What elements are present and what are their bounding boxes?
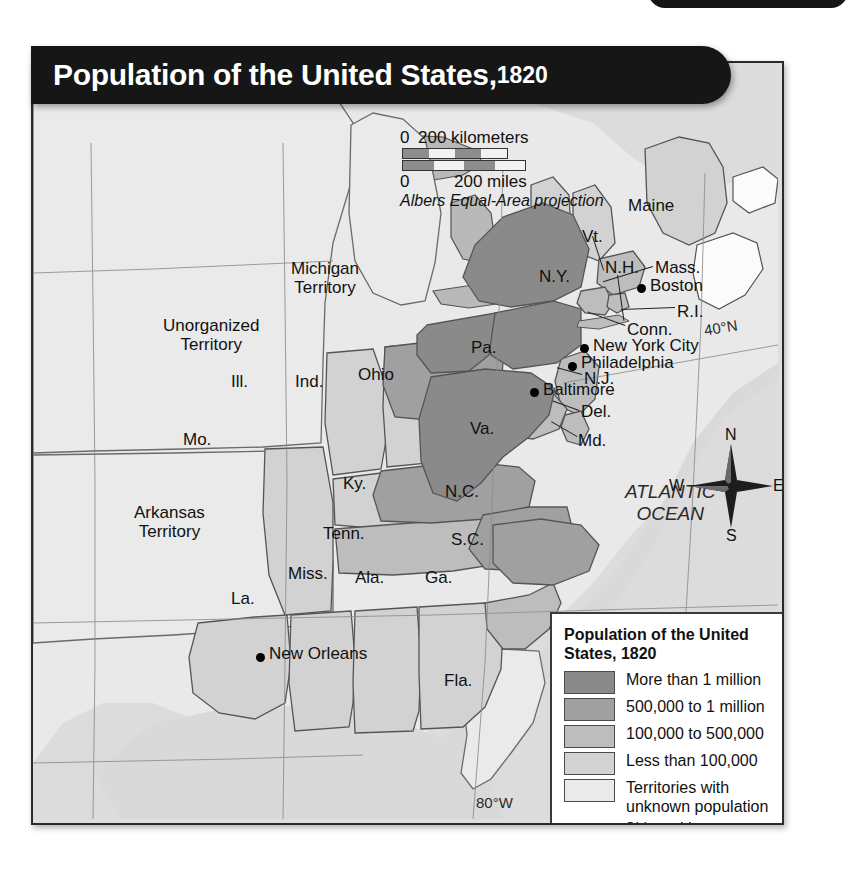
label-baltimore: Baltimore — [543, 381, 615, 398]
label-north-carolina: N.C. — [445, 483, 479, 500]
legend-item-less-than-100k: Less than 100,000 — [564, 751, 784, 775]
compass-star-icon — [681, 436, 781, 536]
map-scale-bar: 0 200 kilometers 0 200 miles Albers Equa… — [400, 128, 604, 210]
legend-label-tier5: Territories with unknown population — [626, 778, 768, 816]
legend-item-100k-to-500k: 100,000 to 500,000 — [564, 724, 784, 748]
label-new-york-city: New York City — [593, 337, 699, 354]
map-legend: Population of the United States, 1820 Mo… — [550, 612, 784, 825]
legend-swatch-tier3 — [564, 725, 615, 748]
legend-city-dot-wrap — [564, 819, 613, 825]
legend-label-tier1: More than 1 million — [626, 670, 761, 689]
label-georgia: Ga. — [425, 569, 452, 586]
label-alabama: Ala. — [355, 569, 384, 586]
legend-swatch-tier1 — [564, 671, 615, 694]
city-dot-new-orleans — [256, 653, 265, 662]
label-delaware: Del. — [581, 403, 611, 420]
legend-item-more-than-1-million: More than 1 million — [564, 670, 784, 694]
legend-label-tier2: 500,000 to 1 million — [626, 697, 765, 716]
city-dot-new-york-city — [580, 344, 589, 353]
compass-rose: N E S W — [681, 436, 781, 536]
scale-km-zero: 0 — [400, 128, 418, 147]
label-massachusetts: Mass. — [655, 259, 700, 276]
label-mississippi: Miss. — [288, 565, 328, 582]
map-projection-label: Albers Equal-Area projection — [400, 192, 604, 210]
legend-item-500k-to-1m: 500,000 to 1 million — [564, 697, 784, 721]
label-text: Territory — [181, 335, 242, 354]
label-kentucky: Ky. — [343, 475, 366, 492]
mississippi-area — [289, 611, 355, 731]
scale-seg — [464, 161, 495, 170]
legend-title-line-1: Population of the United — [564, 626, 749, 643]
legend-item-unknown-population: Territories with unknown population — [564, 778, 784, 816]
scale-seg — [481, 149, 507, 158]
label-text: Territory — [139, 522, 200, 541]
scale-km-label: 200 kilometers — [418, 128, 529, 147]
city-dot-baltimore — [530, 388, 539, 397]
scale-seg — [429, 149, 455, 158]
label-rhode-island: R.I. — [677, 303, 703, 320]
label-unorganized-territory: Unorganized Territory — [163, 316, 259, 354]
label-illinois: Ill. — [231, 373, 248, 390]
label-florida: Fla. — [444, 672, 472, 689]
label-arkansas-territory: Arkansas Territory — [134, 503, 205, 541]
legend-label-cities: Cities with more than 25,000 — [624, 819, 738, 825]
scale-bar-miles — [402, 160, 526, 171]
legend-label-tier5-line-1: Territories with — [626, 779, 729, 796]
label-maine: Maine — [628, 197, 674, 214]
city-dot-boston — [637, 284, 646, 293]
label-pennsylvania: Pa. — [471, 339, 497, 356]
alabama-area — [353, 607, 421, 733]
legend-swatch-tier2 — [564, 698, 615, 721]
label-new-york: N.Y. — [539, 268, 570, 285]
legend-swatch-tier4 — [564, 752, 615, 775]
legend-label-tier4: Less than 100,000 — [626, 751, 758, 770]
scale-mi-label: 200 miles — [454, 172, 527, 191]
scale-seg — [434, 161, 465, 170]
legend-cities-line-1: Cities with more — [624, 820, 738, 825]
label-boston: Boston — [650, 277, 703, 294]
city-dot-philadelphia — [568, 362, 577, 371]
legend-label-tier3: 100,000 to 500,000 — [626, 724, 764, 743]
scale-mi-zero: 0 — [400, 172, 418, 191]
page-top-cut-element — [648, 0, 848, 8]
label-missouri: Mo. — [183, 431, 211, 448]
legend-title-line-2: States, 1820 — [564, 645, 657, 662]
scale-seg — [455, 149, 481, 158]
legend-label-tier5-line-2: unknown population — [626, 798, 768, 815]
scale-seg — [495, 161, 526, 170]
compass-label-north: N — [725, 426, 737, 444]
label-south-carolina: S.C. — [451, 531, 484, 548]
compass-label-west: W — [669, 477, 684, 495]
legend-swatch-tier5 — [564, 779, 615, 802]
map-title-banner: Population of the United States, 1820 — [31, 46, 731, 104]
compass-label-south: S — [726, 527, 737, 545]
legend-item-cities: Cities with more than 25,000 — [564, 819, 784, 825]
label-virginia: Va. — [470, 420, 494, 437]
label-philadelphia: Philadelphia — [581, 354, 674, 371]
scale-row-miles: 0 200 miles — [400, 172, 604, 191]
label-ohio: Ohio — [358, 366, 394, 383]
compass-label-east: E — [773, 477, 784, 495]
scale-row-kilometers: 0 200 kilometers — [400, 128, 604, 147]
label-michigan-territory: Michigan Territory — [291, 259, 359, 297]
label-tennessee: Tenn. — [323, 525, 365, 542]
label-text: Territory — [294, 278, 355, 297]
label-text: Unorganized — [163, 316, 259, 335]
scale-bar-kilometers — [402, 148, 508, 159]
label-new-orleans: New Orleans — [269, 645, 367, 662]
map-title-text: Population of the United States, — [31, 58, 497, 92]
map-title-year: 1820 — [497, 62, 548, 89]
label-new-hampshire: N.H. — [605, 259, 639, 276]
label-longitude-80w: 80°W — [476, 794, 513, 811]
label-text: Arkansas — [134, 503, 205, 522]
label-indiana: Ind. — [295, 373, 323, 390]
scale-seg — [403, 161, 434, 170]
scale-seg — [403, 149, 429, 158]
legend-title: Population of the United States, 1820 — [564, 625, 784, 663]
label-text: Michigan — [291, 259, 359, 278]
label-louisiana: La. — [231, 590, 255, 607]
label-maryland: Md. — [578, 432, 606, 449]
